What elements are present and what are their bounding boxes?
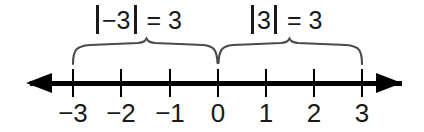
number-line-figure: −3= 3 3= 3 −3 −2 −1 0 1 2 3 xyxy=(0,0,424,132)
tick-mark-three xyxy=(361,69,363,97)
tick-mark-negative-three xyxy=(72,69,74,97)
tick-mark-one xyxy=(265,69,267,97)
tick-mark-two xyxy=(313,69,315,97)
number-line-axis xyxy=(30,81,402,86)
tick-mark-negative-two xyxy=(120,69,122,97)
arrow-left-icon xyxy=(26,73,52,93)
tick-mark-negative-one xyxy=(169,69,171,97)
brace-negative-three-to-zero-icon xyxy=(73,39,218,65)
tick-mark-zero xyxy=(217,69,219,97)
brace-zero-to-three-icon xyxy=(219,39,363,65)
tick-label-three: 3 xyxy=(332,100,392,126)
arrow-right-icon xyxy=(376,73,402,93)
